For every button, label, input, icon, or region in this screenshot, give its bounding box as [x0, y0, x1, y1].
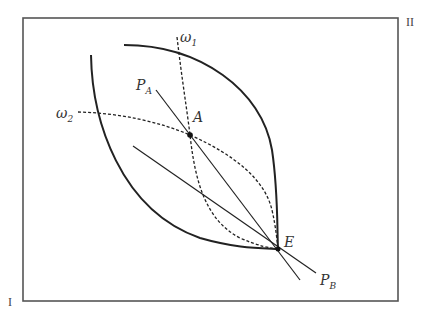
- edgeworth-box-diagram: ω1 ω2 PA PB A E II I: [0, 0, 437, 314]
- indifference-curve-II: [124, 45, 278, 249]
- point-E: [276, 247, 281, 252]
- label-origin-I: I: [8, 296, 12, 308]
- indifference-curve-I: [91, 55, 278, 249]
- label-PA: PA: [136, 78, 152, 96]
- point-A: [187, 132, 193, 138]
- label-PB: PB: [320, 273, 336, 291]
- label-origin-II: II: [406, 16, 414, 28]
- label-omega2: ω2: [56, 106, 73, 124]
- price-line-PA: [156, 90, 300, 280]
- label-A: A: [193, 110, 203, 124]
- price-line-PB: [133, 146, 316, 273]
- box-frame: [23, 18, 398, 301]
- diagram-canvas: [0, 0, 437, 314]
- label-E: E: [284, 235, 294, 249]
- offer-curve-omega1: [177, 37, 278, 249]
- label-omega1: ω1: [180, 30, 197, 48]
